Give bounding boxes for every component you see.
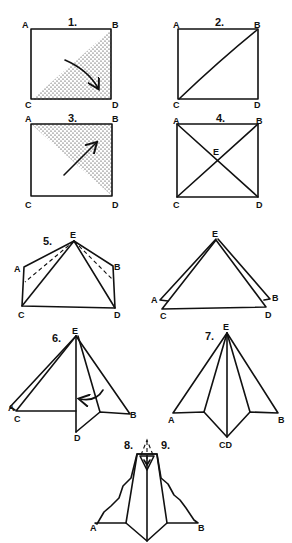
step-5: A B C D E 5. bbox=[14, 230, 121, 320]
label-e: E bbox=[72, 326, 78, 336]
label-c: C bbox=[160, 311, 167, 321]
label-d: D bbox=[254, 100, 261, 110]
step-8-9: A B 8. 9. bbox=[90, 439, 205, 541]
label-c: C bbox=[18, 310, 25, 320]
label-a: A bbox=[173, 20, 180, 30]
shaded-triangle bbox=[31, 30, 111, 100]
label-c: C bbox=[173, 200, 180, 210]
label-a: A bbox=[173, 116, 180, 126]
label-a: A bbox=[168, 415, 175, 425]
label-d: D bbox=[256, 200, 263, 210]
label-d: D bbox=[114, 310, 121, 320]
step-4: A B C D E 4. bbox=[173, 112, 263, 210]
step-1: A B C D 1. bbox=[22, 16, 119, 110]
left-half bbox=[16, 336, 76, 411]
label-c: C bbox=[173, 100, 180, 110]
label-a: A bbox=[22, 20, 29, 30]
label-e: E bbox=[213, 147, 219, 157]
label-b: B bbox=[272, 293, 279, 303]
step-7: A B CD E 7. bbox=[168, 322, 285, 450]
label-b: B bbox=[256, 116, 263, 126]
step-number-8: 8. bbox=[124, 439, 133, 451]
kite-outline bbox=[22, 241, 115, 308]
step-number: 1. bbox=[68, 16, 77, 28]
label-b: B bbox=[112, 114, 119, 124]
right-flap bbox=[76, 336, 130, 432]
label-a: A bbox=[90, 523, 97, 533]
step-6: A B C D E 6. bbox=[8, 326, 137, 443]
fold-right bbox=[227, 333, 250, 412]
label-cd: CD bbox=[219, 440, 232, 450]
label-c: C bbox=[25, 100, 32, 110]
label-b: B bbox=[278, 415, 285, 425]
label-c: C bbox=[25, 200, 32, 210]
shaded-triangle bbox=[31, 124, 112, 196]
dashed-fold-left bbox=[25, 241, 74, 282]
triangle bbox=[162, 240, 266, 309]
fold-left bbox=[204, 333, 227, 412]
step-5b: A B C D E bbox=[151, 229, 279, 321]
label-b: B bbox=[112, 20, 119, 30]
fold-edge-left bbox=[22, 241, 74, 306]
step-number: 5. bbox=[43, 235, 52, 247]
label-a: A bbox=[151, 295, 158, 305]
label-c: C bbox=[14, 414, 21, 424]
label-e: E bbox=[223, 322, 229, 332]
flap-right bbox=[218, 239, 270, 300]
flap-left bbox=[160, 239, 216, 301]
label-a: A bbox=[14, 264, 21, 274]
label-a: A bbox=[25, 114, 32, 124]
step-number: 4. bbox=[216, 112, 225, 124]
label-e: E bbox=[212, 229, 218, 239]
fold-line bbox=[78, 336, 100, 412]
step-number: 3. bbox=[68, 112, 77, 124]
fold-arrow-icon bbox=[80, 390, 103, 400]
label-d: D bbox=[265, 310, 272, 320]
step-3: A B C D 3. bbox=[25, 112, 119, 210]
label-d: D bbox=[74, 433, 81, 443]
label-b: B bbox=[114, 262, 121, 272]
inner-right bbox=[157, 455, 167, 523]
step-number: 2. bbox=[215, 16, 224, 28]
outline bbox=[173, 333, 278, 437]
label-b: B bbox=[254, 20, 261, 30]
label-d: D bbox=[112, 200, 119, 210]
label-d: D bbox=[112, 100, 119, 110]
fold-edge-right bbox=[74, 241, 115, 308]
label-a: A bbox=[8, 403, 15, 413]
step-number-9: 9. bbox=[161, 439, 170, 451]
diagonal-crease bbox=[179, 30, 257, 99]
label-b: B bbox=[198, 523, 205, 533]
label-e: E bbox=[70, 230, 76, 240]
step-number: 7. bbox=[205, 330, 214, 342]
step-2: A B C D 2. bbox=[173, 16, 261, 110]
label-b: B bbox=[130, 410, 137, 420]
origami-diagram: A B C D 1. A B C D 2. A B C D 3. A B C D… bbox=[0, 0, 292, 543]
step-number: 6. bbox=[52, 332, 61, 344]
inner-left bbox=[126, 455, 137, 523]
